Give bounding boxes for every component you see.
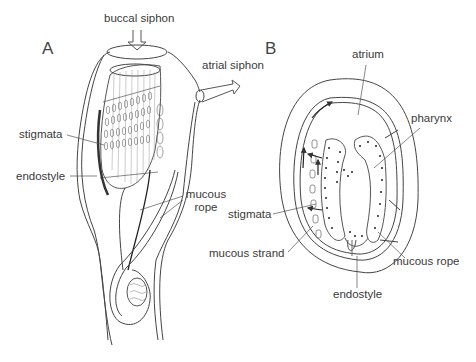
flow-arrows — [303, 102, 332, 210]
label-stigmata-a: stigmata — [19, 129, 62, 141]
label-endostyle-b: endostyle — [333, 289, 382, 301]
label-endostyle-a: endostyle — [16, 171, 65, 183]
label-buccal-siphon: buccal siphon — [104, 13, 174, 25]
label-mucous-rope-a-line1: mucous — [184, 189, 228, 201]
label-mucous-rope-a: mucous rope — [184, 189, 228, 213]
label-mucous-rope-b: mucous rope — [393, 256, 459, 268]
label-stigmata-b: stigmata — [228, 209, 271, 221]
label-mucous-rope-a-line2: rope — [184, 202, 228, 214]
label-pharynx: pharynx — [411, 113, 452, 125]
cross-section-illustration — [280, 79, 419, 273]
label-mucous-strand: mucous strand — [209, 248, 284, 260]
label-atrium: atrium — [352, 49, 384, 61]
panel-label-a: A — [42, 40, 53, 57]
panel-label-b: B — [265, 40, 276, 57]
label-atrial-siphon: atrial siphon — [202, 60, 264, 72]
diagram-canvas — [0, 0, 476, 362]
